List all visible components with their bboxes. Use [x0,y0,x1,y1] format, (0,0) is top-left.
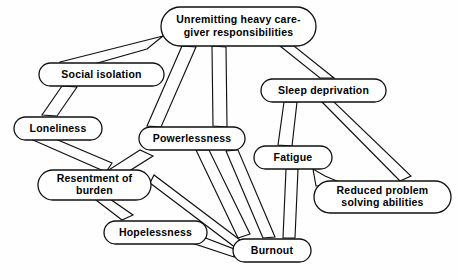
node-burnout[interactable]: Burnout [233,239,311,262]
node-hopelessness[interactable]: Hopelessness [104,221,207,244]
link-responsibilities-to-powerlessness-right [212,46,227,127]
node-label-loneliness: Loneliness [30,121,87,133]
node-label-sleep-deprivation: Sleep deprivation [278,83,369,95]
node-powerlessness[interactable]: Powerlessness [139,127,245,150]
node-sleep-deprivation[interactable]: Sleep deprivation [261,79,386,102]
diagram-canvas: Unremitting heavy care-giver responsibil… [0,0,457,280]
node-label-social-isolation: Social isolation [61,67,141,79]
link-isolation-to-loneliness [42,86,77,116]
node-label-fatigue: Fatigue [274,150,313,162]
node-loneliness[interactable]: Loneliness [14,117,102,140]
node-label-responsibilities: Unremitting heavy care-giver responsibil… [176,13,301,38]
node-social-isolation[interactable]: Social isolation [39,63,164,86]
node-label-powerlessness: Powerlessness [153,131,232,143]
node-fatigue[interactable]: Fatigue [254,146,332,169]
node-responsibilities[interactable]: Unremitting heavy care-giver responsibil… [161,7,316,46]
link-fatigue-to-burnout [283,169,298,238]
link-sleep-to-reduced-problem [322,101,411,181]
node-label-hopelessness: Hopelessness [119,225,192,237]
node-label-burnout: Burnout [251,243,294,255]
node-reduced-problem-solving[interactable]: Reduced problemsolving abilities [314,181,451,213]
link-sleep-to-fatigue [278,102,297,146]
node-resentment[interactable]: Resentment ofburden [38,170,151,200]
nodes-layer: Unremitting heavy care-giver responsibil… [14,7,451,262]
link-responsibilities-to-sleep [280,46,334,78]
concept-map-diagram: Unremitting heavy care-giver responsibil… [0,0,457,280]
node-label-reduced-problem-solving: Reduced problemsolving abilities [337,183,429,208]
